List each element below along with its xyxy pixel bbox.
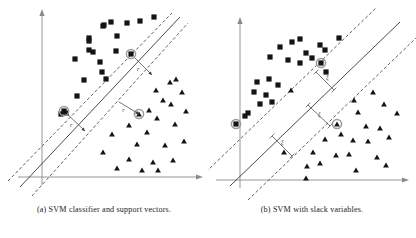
data-point-square [289, 39, 294, 44]
data-point-triangle [155, 167, 161, 172]
margin-center-label: r [122, 107, 125, 113]
data-point-triangle [355, 109, 361, 114]
panel-b-axes [216, 17, 409, 188]
data-point-square [275, 82, 280, 87]
data-point-square [86, 38, 91, 43]
data-point-triangle [181, 138, 187, 143]
data-point-triangle [386, 134, 392, 139]
data-point-square [267, 54, 272, 59]
data-point-square [336, 35, 341, 40]
data-point-triangle [338, 131, 344, 136]
y-axis-arrowhead [237, 17, 242, 24]
data-point-square [108, 19, 113, 24]
data-point-triangle [114, 165, 120, 170]
data-point-square [266, 76, 271, 81]
data-point-triangle [333, 152, 339, 157]
panel-a-axes [18, 9, 203, 185]
data-point-square [242, 113, 247, 118]
data-point-square [128, 51, 133, 56]
data-point-triangle [351, 97, 357, 102]
data-point-square [113, 48, 118, 53]
panel-b-support-vectors [231, 58, 341, 128]
data-point-triangle [139, 167, 145, 172]
data-point-triangle [109, 131, 115, 136]
margin-lower-line [248, 38, 416, 200]
data-point-triangle [353, 167, 359, 172]
data-point-square [114, 33, 119, 38]
data-point-square [103, 76, 108, 81]
panel-a-squares [58, 14, 156, 116]
panel-a: rrr (a) SVM classifier and support vecto… [0, 0, 208, 238]
data-point-square [303, 50, 308, 55]
data-point-square [297, 60, 302, 65]
panel-b: ξξξ (b) SVM with slack variables. [208, 0, 416, 238]
data-point-triangle [394, 110, 400, 115]
data-point-square [285, 57, 290, 62]
data-point-square [101, 22, 106, 27]
data-point-triangle [377, 125, 383, 130]
panel-a-margin-annotations: rrr [68, 58, 152, 131]
svm-figure-row: rrr (a) SVM classifier and support vecto… [0, 0, 416, 238]
data-point-triangle [334, 121, 340, 126]
data-point-triangle [346, 151, 352, 156]
y-axis-arrowhead [39, 9, 44, 16]
data-point-triangle [303, 175, 309, 180]
data-point-square [124, 20, 129, 25]
data-point-triangle [172, 121, 178, 126]
data-point-square [297, 36, 302, 41]
panel-a-triangles [100, 76, 189, 172]
data-point-square [99, 69, 104, 74]
margin-lower-line [32, 23, 188, 196]
decision-boundary-line [230, 22, 400, 186]
slack-xi-1-label: ξ [326, 73, 329, 81]
data-point-triangle [350, 137, 356, 142]
data-point-triangle [363, 123, 369, 128]
data-point-triangle [100, 149, 106, 154]
data-point-triangle [310, 149, 316, 154]
data-point-triangle [153, 87, 159, 92]
panel-a-caption: (a) SVM classifier and support vectors. [37, 206, 171, 215]
margin-upper-right-label: r [137, 66, 140, 72]
panel-b-caption: (b) SVM with slack variables. [261, 206, 364, 215]
data-point-square [74, 93, 79, 98]
data-point-square [151, 14, 156, 19]
x-axis-arrowhead [196, 174, 203, 179]
data-point-triangle [170, 157, 176, 162]
data-point-triangle [173, 76, 179, 81]
data-point-triangle [370, 89, 376, 94]
data-point-triangle [317, 160, 323, 165]
slack-bracket-1 [316, 72, 334, 90]
data-point-triangle [150, 159, 156, 164]
data-point-triangle [167, 79, 173, 84]
data-point-triangle [183, 108, 189, 113]
data-point-square [254, 79, 259, 84]
data-point-square [97, 59, 102, 64]
data-point-square [317, 42, 322, 47]
data-point-triangle [134, 141, 140, 146]
data-point-triangle [168, 101, 174, 106]
panel-b-plot: ξξξ [208, 0, 416, 205]
data-point-square [257, 101, 262, 106]
data-point-square [322, 47, 327, 52]
data-point-triangle [365, 138, 371, 143]
data-point-square [81, 77, 86, 82]
data-point-square [233, 121, 238, 126]
data-point-triangle [179, 89, 185, 94]
data-point-triangle [383, 162, 389, 167]
data-point-triangle [374, 154, 380, 159]
data-point-square [269, 99, 274, 104]
data-point-triangle [144, 129, 150, 134]
slack-xi-2-label: ξ [318, 110, 321, 118]
data-point-square [318, 60, 323, 65]
data-point-triangle [126, 122, 132, 127]
margin-lower-left-label: r [70, 122, 73, 128]
data-point-square [309, 55, 314, 60]
data-point-square [251, 89, 256, 94]
data-point-square [263, 92, 268, 97]
data-point-square [137, 18, 142, 23]
data-point-triangle [160, 97, 166, 102]
data-point-square [277, 44, 282, 49]
decision-boundary-line [20, 17, 180, 187]
data-point-triangle [304, 163, 310, 168]
data-point-triangle [126, 156, 132, 161]
